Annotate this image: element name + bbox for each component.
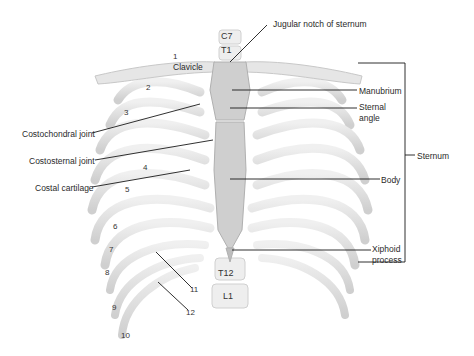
label-costal-cartilage: Costal cartilage	[35, 183, 94, 193]
rib-number-5: 5	[125, 185, 129, 194]
label-costochondral-joint: Costochondral joint	[22, 129, 95, 139]
label-manubrium: Manubrium	[359, 86, 402, 96]
rib-number-11: 11	[190, 285, 198, 294]
rib-number-3: 3	[124, 108, 128, 117]
label-sternal-angle-line2: angle	[359, 113, 380, 123]
vertebra-c7-label: C7	[221, 31, 233, 41]
manubrium	[210, 62, 250, 120]
rib-number-8: 8	[105, 268, 109, 277]
label-xiphoid-line2: process	[372, 255, 402, 265]
label-body: Body	[381, 175, 400, 185]
thoracic-cage-diagram: C7 T1 T12 L1 1 2 3 4 5 6 7 8 9 10 11 12 …	[0, 0, 474, 356]
rib-number-6: 6	[113, 222, 117, 231]
rib-cage-illustration	[0, 0, 474, 356]
label-clavicle: Clavicle	[173, 62, 203, 72]
rib-number-4: 4	[143, 163, 147, 172]
rib-number-12: 12	[186, 308, 195, 317]
ribs-right	[252, 82, 368, 315]
vertebra-t12-label: T12	[218, 268, 234, 278]
rib-number-10: 10	[121, 331, 130, 340]
label-sternum: Sternum	[417, 151, 449, 161]
label-xiphoid-line1: Xiphoid	[372, 244, 400, 254]
label-sternal-angle-line1: Sternal	[359, 102, 386, 112]
sternum	[210, 62, 250, 262]
rib-number-1: 1	[173, 52, 177, 61]
rib-number-9: 9	[112, 303, 116, 312]
sternal-body	[214, 122, 246, 248]
rib-number-2: 2	[146, 83, 150, 92]
rib-number-7: 7	[109, 245, 113, 254]
ribs-left	[92, 82, 210, 335]
vertebra-t1-label: T1	[221, 45, 232, 55]
vertebra-l1-label: L1	[223, 291, 233, 301]
label-costosternal-joint: Costosternal joint	[29, 156, 95, 166]
label-jugular-notch: Jugular notch of sternum	[273, 19, 367, 29]
